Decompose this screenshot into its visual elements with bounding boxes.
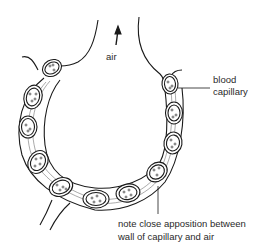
blood-capillary-label-line2: capillary	[213, 86, 248, 98]
capillary	[161, 73, 179, 94]
stalk-right	[50, 203, 70, 230]
capillary	[39, 56, 64, 80]
duct-wall-left	[60, 20, 98, 66]
capillary	[24, 147, 52, 177]
stalk-left	[40, 200, 52, 225]
capillary	[83, 190, 109, 208]
air-label: air	[106, 51, 117, 63]
note-label-line2: wall of capillary and air	[118, 231, 214, 243]
capillary	[47, 174, 76, 199]
capillary	[166, 102, 183, 124]
note-label-line1: note close apposition between	[118, 218, 246, 230]
blood-capillary-label-line1: blood	[213, 74, 236, 86]
capillary	[19, 116, 37, 138]
capillary	[21, 83, 45, 111]
alveolus-diagram	[0, 0, 275, 250]
capillary	[162, 131, 184, 156]
duct-wall-left-outer	[22, 57, 38, 70]
capillary	[143, 158, 171, 186]
capillary	[115, 182, 142, 204]
air-arrow-icon	[115, 26, 121, 45]
duct-wall-right	[138, 17, 163, 84]
